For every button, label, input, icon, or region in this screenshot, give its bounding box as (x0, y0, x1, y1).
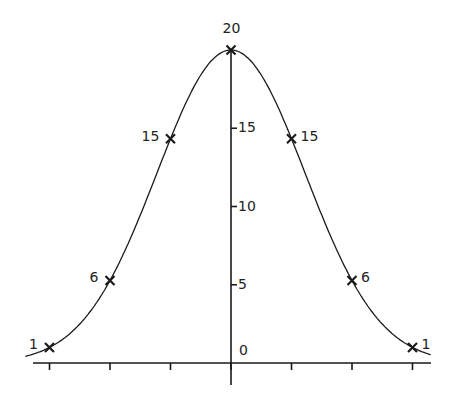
y-tick-label: 15 (238, 120, 256, 134)
data-point-label: 15 (301, 129, 319, 143)
x-marker-icon (166, 134, 175, 143)
y-tick-label: 0 (239, 343, 248, 357)
x-axis (33, 363, 431, 370)
y-tick-label: 10 (238, 199, 256, 213)
bell-curve-chart (0, 0, 455, 402)
data-point-label: 20 (223, 21, 241, 35)
data-point-label: 6 (90, 270, 99, 284)
y-tick-label: 5 (238, 277, 247, 291)
x-marker-icon (287, 134, 296, 143)
x-marker-icon (348, 276, 357, 285)
data-point-label: 15 (142, 129, 160, 143)
x-marker-icon (106, 276, 115, 285)
x-marker-icon (408, 343, 417, 352)
y-axis-ticks (231, 128, 237, 285)
data-point-label: 1 (422, 337, 431, 351)
data-point-label: 6 (361, 270, 370, 284)
x-marker-icon (45, 343, 54, 352)
data-point-label: 1 (29, 337, 38, 351)
y-axis (231, 49, 237, 385)
bell-curve-line (25, 50, 430, 356)
